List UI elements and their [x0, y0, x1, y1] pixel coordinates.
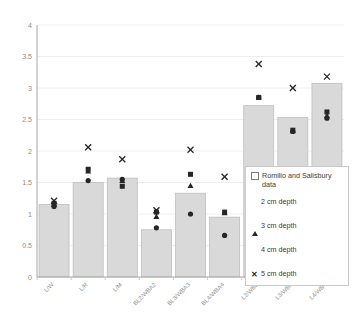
legend-item: ✕5 cm depth: [251, 261, 343, 285]
y-tick-label: 2.5: [22, 116, 32, 123]
data-point-marker: [324, 74, 330, 80]
y-tick-labels: 00.511.522.533.54: [22, 22, 32, 281]
legend-item-label: 2 cm depth: [261, 197, 297, 206]
legend-title-row: Romilio and Salisbury data: [251, 171, 343, 189]
x-tick-label: BL3/WBA3: [166, 281, 191, 306]
bar: [210, 217, 240, 277]
legend-item: 3 cm depth: [251, 213, 343, 237]
data-point-marker: [188, 172, 193, 177]
legend-items: 2 cm depth3 cm depth4 cm depth✕5 cm dept…: [251, 189, 343, 285]
bar: [39, 205, 69, 277]
legend-item-label: 3 cm depth: [261, 221, 297, 230]
data-point-marker: [222, 233, 227, 238]
x-tick-label: L/W: [43, 281, 55, 293]
square-marker-icon: [251, 246, 258, 253]
data-point-marker: [222, 210, 227, 215]
chart-container: 00.511.522.533.54 L/WL/RL/MBL2/WBA2BL3/W…: [0, 0, 354, 327]
x-marker-icon: ✕: [251, 270, 258, 277]
bar: [107, 178, 137, 277]
y-tick-label: 2: [28, 148, 32, 155]
data-point-marker: [324, 109, 329, 114]
y-tick-label: 3: [28, 85, 32, 92]
x-tick-label: BL2/WBA2: [132, 281, 157, 306]
x-tick-label: BL4/WBA4: [200, 281, 225, 306]
data-point-marker: [188, 183, 194, 188]
chart-legend: Romilio and Salisbury data 2 cm depth3 c…: [245, 166, 349, 286]
legend-bar-swatch-icon: [251, 172, 259, 180]
data-point-marker: [188, 211, 193, 216]
legend-item: 4 cm depth: [251, 237, 343, 261]
data-point-marker: [86, 167, 91, 172]
data-point-marker: [290, 128, 295, 133]
legend-item: 2 cm depth: [251, 189, 343, 213]
legend-item-label: 4 cm depth: [261, 245, 297, 254]
circle-marker-icon: [251, 198, 258, 205]
data-point-marker: [119, 156, 125, 162]
y-tick-label: 0.5: [22, 242, 32, 249]
bar: [73, 183, 103, 278]
y-tick-label: 3.5: [22, 53, 32, 60]
y-tick-label: 4: [28, 22, 32, 29]
x-tick-label: L/M: [112, 281, 123, 292]
y-tick-label: 1: [28, 211, 32, 218]
data-point-marker: [154, 225, 159, 230]
y-tick-label: 1.5: [22, 179, 32, 186]
legend-title-text: Romilio and Salisbury data: [262, 171, 343, 189]
data-point-marker: [85, 144, 91, 150]
triangle-marker-icon: [251, 222, 258, 229]
data-point-marker: [256, 61, 262, 67]
x-tick-label: L/R: [78, 281, 89, 292]
data-point-marker: [120, 184, 125, 189]
y-tick-label: 0: [28, 274, 32, 281]
data-point-marker: [188, 147, 194, 153]
data-point-marker: [222, 174, 228, 180]
data-point-marker: [86, 178, 91, 183]
data-point-marker: [256, 95, 261, 100]
bar: [141, 230, 171, 277]
bar: [175, 193, 205, 277]
legend-item-label: 5 cm depth: [261, 269, 297, 278]
